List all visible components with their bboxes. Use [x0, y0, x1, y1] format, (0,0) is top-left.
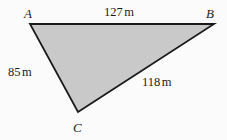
side-bc-unit: m: [162, 75, 172, 89]
triangle-figure: A B C 127m 85m 118m: [0, 0, 227, 140]
side-ab-value: 127: [104, 5, 123, 19]
vertex-label-a: A: [24, 7, 32, 20]
side-ab-unit: m: [124, 5, 134, 19]
vertex-label-c: C: [73, 121, 82, 134]
side-label-ac: 85m: [8, 66, 32, 79]
side-label-bc: 118m: [142, 76, 172, 89]
side-ac-unit: m: [22, 65, 32, 79]
side-ac-value: 85: [8, 65, 21, 79]
vertex-label-b: B: [206, 7, 214, 20]
side-label-ab: 127m: [104, 6, 134, 19]
triangle-polygon: [30, 24, 214, 112]
side-bc-value: 118: [142, 75, 160, 89]
triangle-shape: [0, 0, 227, 140]
